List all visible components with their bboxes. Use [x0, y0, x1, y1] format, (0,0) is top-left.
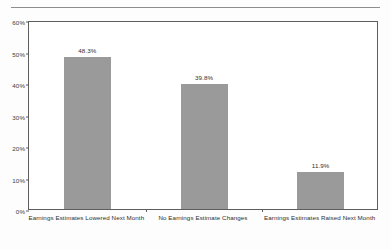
bar: 11.9%	[297, 172, 344, 209]
bar-value-label: 11.9%	[312, 162, 330, 169]
y-axis-tick-mark	[26, 148, 29, 149]
bar: 39.8%	[181, 84, 228, 209]
x-axis-category-label: No Earnings Estimate Changes	[158, 214, 247, 221]
bar-value-label: 48.3%	[78, 47, 96, 54]
top-divider-rule	[11, 7, 380, 8]
x-axis-tick-mark	[146, 209, 147, 212]
x-axis-tick-mark	[262, 209, 263, 212]
x-axis-category-label: Earnings Estimates Lowered Next Month	[28, 214, 144, 221]
x-axis-category-label: Earnings Estimates Raised Next Month	[264, 214, 375, 221]
bar: 48.3%	[64, 57, 111, 209]
y-axis-tick-mark	[26, 53, 29, 54]
bar-value-label: 39.8%	[195, 74, 213, 81]
y-axis-tick-mark	[26, 179, 29, 180]
y-axis-tick-mark	[26, 85, 29, 86]
y-axis-tick-mark	[26, 116, 29, 117]
plot-area: 60%50%40%30%20%10%0% 48.3%39.8%11.9%	[28, 21, 378, 210]
chart-page: 60%50%40%30%20%10%0% 48.3%39.8%11.9% Ear…	[0, 0, 391, 249]
y-axis-tick-mark	[26, 22, 29, 23]
y-axis-tick-mark	[26, 211, 29, 212]
